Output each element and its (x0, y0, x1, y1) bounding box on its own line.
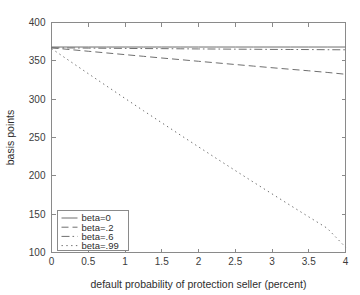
y-axis-title: basis points (4, 110, 16, 165)
x-tick-label: 3.5 (302, 256, 316, 267)
x-tick-label: 0.5 (81, 256, 95, 267)
x-tick-label: 2 (196, 256, 202, 267)
y-tick-label: 100 (29, 247, 46, 258)
x-axis-title: default probability of protection seller… (91, 278, 307, 290)
y-tick-label: 250 (29, 132, 46, 143)
x-tick-label: 1.5 (155, 256, 169, 267)
y-tick-label: 300 (29, 94, 46, 105)
x-tick-label: 4 (343, 256, 349, 267)
series-line-2 (52, 48, 346, 50)
x-tick-label: 2.5 (228, 256, 242, 267)
legend-label-3: beta=.99 (82, 240, 119, 251)
line-chart: 00.511.522.533.54100150200250300350400de… (0, 0, 360, 295)
y-tick-label: 350 (29, 55, 46, 66)
x-tick-label: 3 (269, 256, 275, 267)
y-tick-label: 400 (29, 17, 46, 28)
y-tick-label: 150 (29, 209, 46, 220)
x-tick-label: 0 (49, 256, 55, 267)
series-line-1 (52, 48, 346, 74)
x-tick-label: 1 (122, 256, 128, 267)
chart-figure: 00.511.522.533.54100150200250300350400de… (0, 0, 360, 295)
y-tick-label: 200 (29, 170, 46, 181)
